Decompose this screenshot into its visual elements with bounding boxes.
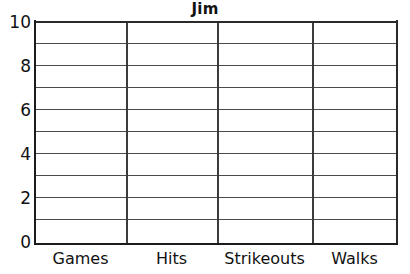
- x-axis-line: [34, 243, 398, 245]
- gridline-y-2: [35, 197, 397, 198]
- gridline-y-6: [35, 109, 397, 110]
- y-tick-label-4: 4: [1, 146, 31, 163]
- gridline-y-3: [35, 175, 397, 176]
- y-tick-label-8: 8: [1, 58, 31, 75]
- y-tick-label-2: 2: [1, 190, 31, 207]
- y-tick-label-0: 0: [1, 234, 31, 251]
- y-axis-tick-labels: 10 8 6 4 2 0: [0, 0, 31, 274]
- x-category-label-strikeouts: Strikeouts: [217, 249, 312, 269]
- chart-title: Jim: [0, 0, 410, 18]
- gridline-y-7: [35, 87, 397, 88]
- gridline-y-9: [35, 43, 397, 44]
- x-category-label-walks: Walks: [312, 249, 397, 269]
- x-category-label-hits: Hits: [126, 249, 217, 269]
- column-divider-strikeouts-walks: [312, 22, 314, 243]
- gridline-y-8: [35, 65, 397, 66]
- y-tick-label-10: 10: [1, 14, 31, 31]
- column-divider-hits-strikeouts: [217, 22, 219, 243]
- y-axis-line: [34, 20, 36, 245]
- column-divider-games-hits: [126, 22, 128, 243]
- y-tick-label-6: 6: [1, 102, 31, 119]
- gridline-y-4: [35, 153, 397, 154]
- gridline-y-5: [35, 131, 397, 132]
- bar-chart: Jim 10 8 6 4 2 0 Games Hits Strikeouts W…: [0, 0, 410, 274]
- plot-top-border: [34, 21, 397, 23]
- gridline-y-1: [35, 219, 397, 220]
- plot-area: [35, 22, 397, 243]
- x-category-label-games: Games: [35, 249, 126, 269]
- plot-right-border: [396, 20, 398, 245]
